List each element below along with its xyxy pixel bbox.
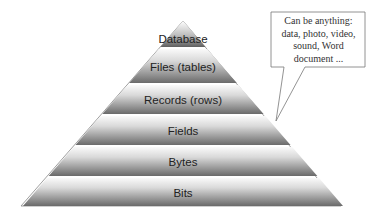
layer-label-files: Files (tables) [150,60,216,74]
layer-label-database: Database [158,32,207,46]
callout-text: Can be anything: data, photo, video, sou… [271,15,366,65]
callout-line-3: sound, Word [271,40,366,53]
layer-label-bytes: Bytes [169,155,198,169]
data-hierarchy-pyramid-diagram: Database Files (tables) Records (rows) F… [0,0,381,217]
callout-line-4: document ... [271,53,366,66]
layer-label-fields: Fields [168,124,199,138]
callout-line-2: data, photo, video, [271,28,366,41]
layer-label-records: Records (rows) [144,93,222,107]
callout-line-1: Can be anything: [271,15,366,28]
layer-label-bits: Bits [173,186,192,200]
